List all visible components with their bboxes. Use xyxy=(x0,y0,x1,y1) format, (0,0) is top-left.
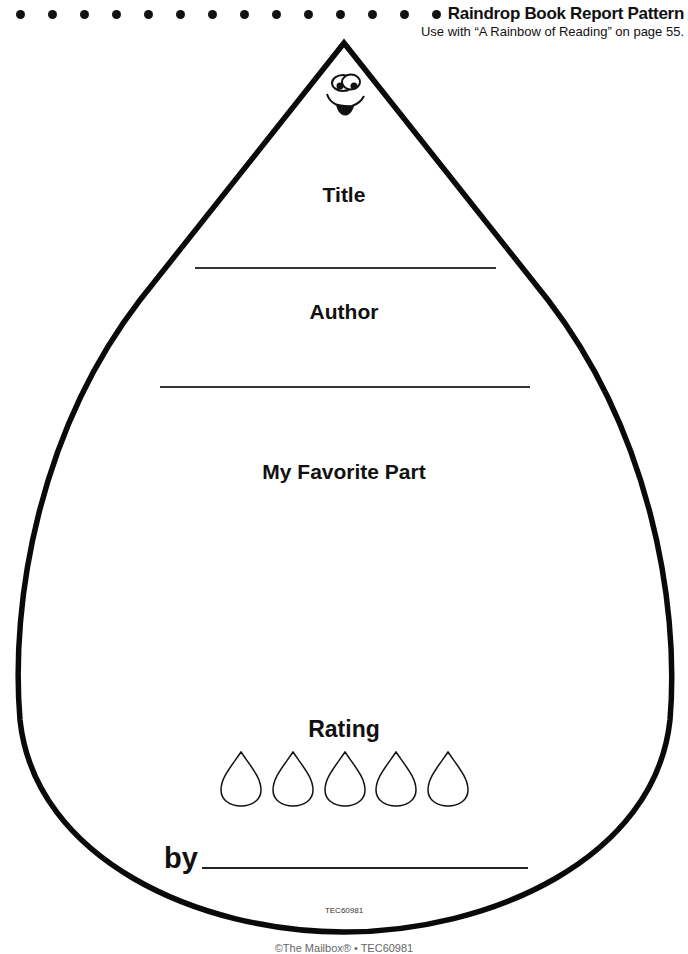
rating-drops[interactable] xyxy=(221,752,468,806)
title-answer-line[interactable] xyxy=(195,267,496,269)
rating-label: Rating xyxy=(0,716,688,743)
author-answer-line[interactable] xyxy=(160,386,530,388)
favorite-part-area[interactable] xyxy=(120,500,568,700)
title-label: Title xyxy=(0,183,688,207)
student-name-line[interactable] xyxy=(202,867,528,869)
by-label: by xyxy=(164,842,198,875)
copyright-footer: ©The Mailbox® • TEC60981 xyxy=(0,942,688,954)
smiley-face-icon xyxy=(327,75,364,116)
product-code: TEC60981 xyxy=(0,906,688,915)
favorite-part-label: My Favorite Part xyxy=(0,460,688,484)
author-label: Author xyxy=(0,300,688,324)
